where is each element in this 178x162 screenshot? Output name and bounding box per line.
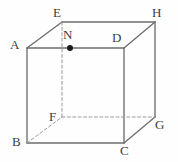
hidden-edge-BF (27, 117, 62, 143)
edge-DH (124, 22, 155, 48)
vertex-label-F: F (49, 110, 56, 123)
vertex-label-C: C (120, 144, 129, 157)
point-label-N: N (63, 28, 72, 41)
edge-AE (27, 22, 62, 48)
edge-GC (124, 117, 155, 143)
marked-point-group (67, 45, 73, 51)
vertex-label-H: H (152, 6, 161, 19)
vertex-label-A: A (10, 38, 19, 51)
cube-svg (0, 0, 178, 162)
cube-figure: ADBCEHFGN (0, 0, 178, 162)
point-N (67, 45, 73, 51)
solid-edge-group (27, 22, 155, 143)
vertex-label-D: D (112, 31, 121, 44)
vertex-label-G: G (155, 118, 164, 131)
vertex-label-E: E (53, 6, 61, 19)
hidden-edge-group (27, 22, 155, 143)
vertex-label-B: B (12, 135, 21, 148)
